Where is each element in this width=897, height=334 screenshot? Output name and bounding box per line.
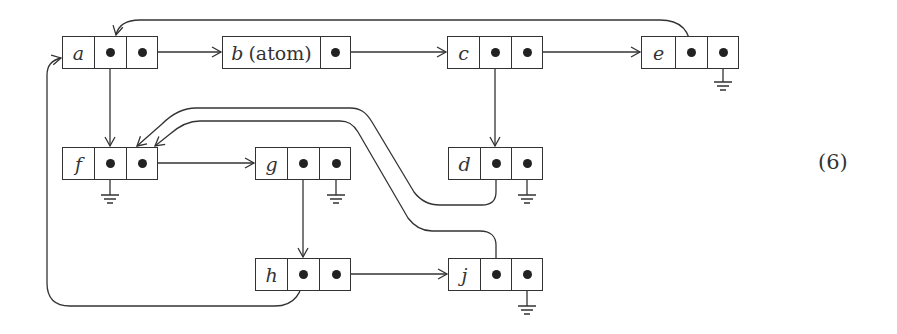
node-g-car: [287, 147, 320, 180]
pointer-dot-icon: [138, 159, 147, 168]
node-j-cdr: [511, 258, 543, 291]
node-b-label: b(atom): [222, 36, 321, 69]
node-h-cdr: [319, 258, 351, 291]
pointer-dot-icon: [719, 48, 728, 57]
node-e-car: [675, 36, 708, 69]
node-d-label: d: [448, 147, 481, 180]
pointer-dot-icon: [331, 48, 340, 57]
node-e-cdr: [707, 36, 739, 69]
pointer-dot-icon: [106, 48, 115, 57]
node-f-cdr: [126, 147, 158, 180]
node-g-label: g: [255, 147, 288, 180]
pointer-dot-icon: [523, 48, 532, 57]
pointer-dot-icon: [492, 270, 501, 279]
node-f-car: [94, 147, 127, 180]
pointer-dot-icon: [523, 159, 532, 168]
pointer-dot-icon: [491, 48, 500, 57]
pointer-dot-icon: [492, 159, 501, 168]
pointer-dot-icon: [299, 270, 308, 279]
pointer-dot-icon: [106, 159, 115, 168]
node-d-cdr: [511, 147, 543, 180]
node-g-cdr: [319, 147, 351, 180]
node-c-label: c: [447, 36, 480, 69]
node-b-cdr: [320, 36, 351, 69]
node-e-label: e: [641, 36, 676, 69]
pointer-dot-icon: [299, 159, 308, 168]
node-c-car: [479, 36, 512, 69]
node-j-car: [480, 258, 512, 291]
edge-e-car-to-a: [116, 20, 691, 52]
equation-number: (6): [818, 150, 848, 174]
node-j-label: j: [448, 258, 481, 291]
pointer-dot-icon: [687, 48, 696, 57]
node-f-label: f: [62, 147, 95, 180]
node-c-cdr: [511, 36, 543, 69]
list-structure-diagram: a b(atom) c e f g d h: [0, 0, 897, 334]
pointer-dot-icon: [523, 270, 532, 279]
pointer-dot-icon: [332, 159, 341, 168]
node-a-cdr: [126, 36, 158, 69]
node-h-label: h: [255, 258, 288, 291]
edge-j-car-to-f: [155, 121, 496, 274]
node-a-car: [94, 36, 127, 69]
node-a-label: a: [62, 36, 95, 69]
pointer-dot-icon: [332, 270, 341, 279]
pointer-dot-icon: [138, 48, 147, 57]
node-h-car: [287, 258, 320, 291]
node-d-car: [480, 147, 512, 180]
